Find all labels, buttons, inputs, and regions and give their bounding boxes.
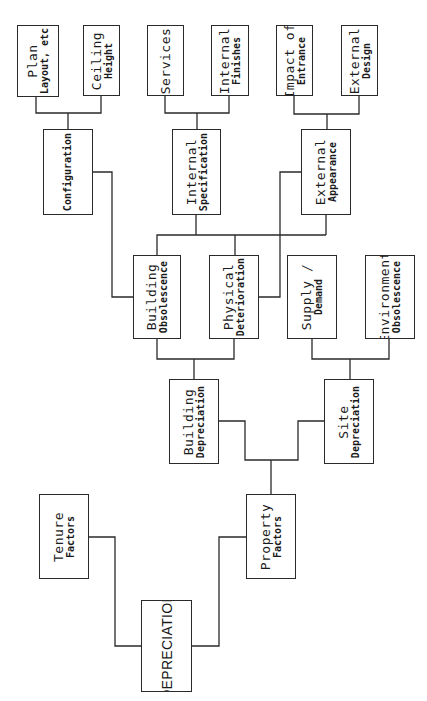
node-label: Supply /Demand	[300, 264, 324, 331]
node-label: PlanLayout, etc	[26, 28, 50, 94]
node-label: BuildingObsolescence	[145, 261, 169, 333]
node-internal-specification: InternalSpecification	[172, 129, 221, 215]
node-label-line1: External	[314, 139, 328, 206]
node-label-line1: Ceiling	[89, 31, 103, 89]
node-label: Impact ofEntrance	[282, 25, 306, 96]
node-label-line1: Property	[259, 503, 273, 570]
node-label-line2: Obsolescence	[392, 255, 403, 339]
node-label-line2: Design	[361, 27, 372, 94]
node-label-line1: Services	[159, 27, 173, 94]
node-supply-demand: Supply /Demand	[287, 255, 337, 339]
node-building-depreciation: BuildingDepreciation	[169, 379, 219, 464]
node-label-line1: Internal	[184, 133, 198, 211]
node-label: SiteDepreciation	[337, 385, 361, 457]
connector-spec-bus	[157, 235, 326, 255]
node-label: PropertyFactors	[259, 503, 283, 570]
node-label: ExternalAppearance	[314, 139, 338, 206]
node-label-line2: Deterioration	[236, 258, 247, 336]
node-label-line1: Building	[145, 261, 159, 333]
node-label: DEPRECIATION	[159, 600, 174, 692]
node-physical-deterioration: PhysicalDeterioration	[209, 255, 259, 339]
node-label-line2: Factors	[273, 503, 284, 570]
node-label-line2: Depreciation	[196, 385, 207, 457]
node-label-line1: Building	[182, 385, 196, 457]
node-label-line2: Factors	[66, 512, 77, 562]
node-label-line1: Plan	[26, 28, 40, 94]
node-label-line1: Impact of	[282, 25, 296, 96]
node-label: TenureFactors	[52, 512, 76, 562]
node-tenure-factors: TenureFactors	[39, 494, 89, 579]
node-plan-layout: PlanLayout, etc	[17, 25, 59, 97]
node-external-design: ExternalDesign	[341, 25, 378, 96]
node-label: EnvironmentObsolescence	[378, 255, 402, 339]
node-internal-finishes: InternalFinishes	[211, 25, 249, 96]
node-property-factors: PropertyFactors	[246, 494, 296, 579]
node-label: ExternalDesign	[347, 27, 371, 94]
node-label-line2: Layout, etc	[40, 28, 51, 94]
node-services: Services	[147, 25, 184, 96]
node-label: InternalFinishes	[218, 27, 242, 94]
node-label: BuildingDepreciation	[182, 385, 206, 457]
connector-obs-det-to-building-depreciation	[157, 339, 234, 359]
node-label-line1: Tenure	[52, 512, 66, 562]
node-label-line1: Site	[337, 385, 351, 457]
connector-supply-env-to-site-depreciation	[312, 339, 389, 359]
node-depreciation: DEPRECIATION	[141, 600, 192, 692]
node-label-line2: Configuration	[63, 133, 74, 211]
connector-services-finishes-to-internal-spec	[165, 96, 229, 113]
node-label-line2: Entrance	[296, 25, 307, 96]
node-label-line2: Demand	[314, 264, 325, 331]
node-label-line1: Physical	[222, 258, 236, 336]
node-building-obsolescence: BuildingObsolescence	[133, 255, 181, 339]
connector-tenure-to-depreciation	[89, 537, 141, 646]
connector-property-to-depreciation	[192, 537, 246, 646]
connector-lines	[0, 0, 427, 701]
node-label-line2: Specification	[198, 133, 209, 211]
node-environment-obsolescence: EnvironmentObsolescence	[365, 255, 415, 339]
node-external-appearance: ExternalAppearance	[301, 129, 351, 215]
node-label: InternalSpecification	[184, 133, 208, 211]
node-label-line1: DEPRECIATION	[159, 600, 174, 692]
node-label-line2: Finishes	[232, 27, 243, 94]
node-label-line1: Supply /	[300, 264, 314, 331]
node-impact-of-entrance: Impact ofEntrance	[276, 25, 313, 96]
node-label-line2: Appearance	[328, 139, 339, 206]
node-label: CeilingHeight	[89, 31, 113, 89]
node-label-line1: Internal	[218, 27, 232, 94]
connector-building-dep-to-property	[219, 421, 324, 460]
node-label: Services	[159, 27, 173, 94]
node-label-line1: Environment	[378, 255, 392, 339]
node-site-depreciation: SiteDepreciation	[324, 379, 374, 464]
node-label: PhysicalDeterioration	[222, 258, 246, 336]
node-label: Configuration	[63, 133, 74, 211]
node-ceiling-height: CeilingHeight	[83, 25, 120, 96]
connector-plan-ceiling-to-configuration	[36, 96, 101, 113]
node-label-line1: External	[347, 27, 361, 94]
node-label-line2: Obsolescence	[159, 261, 170, 333]
node-configuration: Configuration	[43, 129, 93, 215]
node-label-line2: Height	[103, 31, 114, 89]
connector-impact-design-to-external-appearance	[294, 96, 359, 114]
connector-configuration-to-building-obsolescence	[93, 172, 133, 297]
node-label-line2: Depreciation	[351, 385, 362, 457]
